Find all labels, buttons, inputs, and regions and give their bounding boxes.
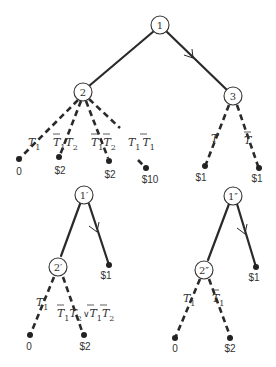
payoff-label: $2: [104, 169, 116, 180]
svg-text:2: 2: [80, 87, 86, 98]
svg-text:1″: 1″: [228, 191, 238, 202]
decision-node-2-double-prime: 2″: [195, 261, 213, 279]
edge-1pp-2pp: [208, 204, 229, 260]
edge-2-leaf-d-lower: [138, 160, 144, 166]
decision-node-2-prime: 2′: [49, 258, 67, 276]
edge-2pp-leaf-T1: [176, 279, 200, 336]
condition-label-T1: T1: [183, 292, 195, 308]
payoff-label: $1: [195, 172, 207, 183]
edge-1pp-leaf: [237, 204, 256, 267]
svg-text:T1: T1: [212, 292, 224, 308]
leaf-node: [227, 335, 233, 341]
payoff-label: $2: [79, 341, 91, 352]
arrow-icon: [237, 224, 247, 234]
leaf-node: [143, 165, 149, 171]
payoff-label: $2: [54, 165, 66, 176]
decision-node-1-prime: 1′: [75, 186, 93, 204]
edge-1-2: [89, 31, 154, 86]
leaf-node: [27, 332, 33, 338]
edge-2p-leaf-or: [63, 277, 83, 334]
leaf-node: [256, 165, 262, 171]
condition-label-notT1-T2: T1T2: [53, 134, 78, 152]
leaf-node: [202, 163, 208, 169]
decision-node-1-double-prime: 1″: [224, 187, 242, 205]
svg-text:2″: 2″: [199, 265, 209, 276]
leaf-node: [106, 262, 112, 268]
edge-1p-leaf: [89, 204, 109, 265]
payoff-label: $1: [100, 270, 112, 281]
decision-node-1: 1: [151, 16, 169, 34]
payoff-label: 0: [26, 341, 32, 352]
payoff-label: $2: [224, 343, 236, 354]
payoff-label: $1: [251, 173, 263, 184]
payoff-label: $1: [248, 272, 260, 283]
edge-2-leaf-c: [86, 101, 108, 158]
svg-text:T1T2∨T1T2: T1T2∨T1T2: [57, 307, 114, 323]
svg-text:T1T1: T1T1: [128, 136, 155, 152]
leaf-node: [172, 335, 178, 341]
condition-label-notT1: T1: [212, 290, 224, 308]
svg-text:1: 1: [157, 20, 163, 31]
payoff-label: 0: [16, 166, 22, 177]
svg-text:2′: 2′: [54, 262, 63, 273]
leaf-node: [106, 158, 112, 164]
svg-text:3: 3: [230, 91, 236, 102]
leaf-node: [56, 154, 62, 160]
leaf-node: [253, 264, 259, 270]
leaf-node: [16, 156, 22, 162]
edge-1-3: [166, 31, 227, 90]
decision-node-2: 2: [74, 83, 92, 101]
svg-text:1′: 1′: [80, 190, 89, 201]
condition-label-T1-notT1: T1T1: [128, 134, 155, 152]
arrow-icon: [89, 222, 99, 232]
svg-text:T1: T1: [183, 292, 195, 308]
condition-label-or: T1T2∨T1T2: [57, 305, 114, 323]
payoff-label: 0: [172, 343, 178, 354]
payoff-label: $10: [142, 174, 159, 185]
edge-1p-2p: [61, 204, 80, 256]
decision-tree-diagram: 0 $2 $2 $10 $1 $1 T1 T1T2 T1T2 T1T1 T T …: [0, 0, 276, 367]
svg-text:T1T2: T1T2: [53, 136, 78, 152]
leaf-node: [81, 332, 87, 338]
decision-node-3: 3: [224, 87, 242, 105]
